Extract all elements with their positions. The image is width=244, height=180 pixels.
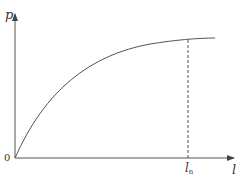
origin-label: 0 bbox=[4, 152, 10, 163]
curve bbox=[15, 38, 215, 158]
ln-label-sub: n bbox=[189, 168, 194, 176]
x-axis-label: l bbox=[232, 162, 236, 177]
y-axis-label: p bbox=[5, 7, 14, 22]
ln-label: ln bbox=[185, 161, 194, 176]
diagram-canvas: p l 0 ln bbox=[0, 0, 244, 180]
